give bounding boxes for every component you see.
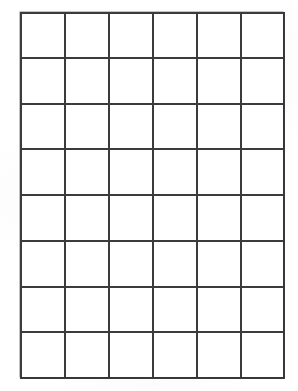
- grid-cell[interactable]: [109, 104, 153, 149]
- grid-cell[interactable]: [21, 149, 65, 195]
- grid-cell[interactable]: [65, 104, 109, 149]
- grid-cell[interactable]: [241, 13, 284, 58]
- grid-cell[interactable]: [197, 195, 241, 241]
- grid-row: [21, 149, 284, 195]
- grid-cell[interactable]: [241, 58, 284, 104]
- grid-cell[interactable]: [21, 195, 65, 241]
- grid-cell[interactable]: [197, 13, 241, 58]
- grid-cell[interactable]: [65, 149, 109, 195]
- grid-cell[interactable]: [109, 195, 153, 241]
- grid-cell[interactable]: [197, 332, 241, 378]
- grid-cell[interactable]: [153, 287, 197, 332]
- grid-cell[interactable]: [109, 58, 153, 104]
- scan-page: [0, 0, 298, 391]
- blank-grid-table: [20, 12, 285, 379]
- grid-cell[interactable]: [241, 287, 284, 332]
- grid-cell[interactable]: [241, 104, 284, 149]
- grid-cell[interactable]: [21, 104, 65, 149]
- grid-cell[interactable]: [109, 287, 153, 332]
- grid-container: [20, 12, 283, 377]
- grid-cell[interactable]: [241, 332, 284, 378]
- grid-cell[interactable]: [65, 332, 109, 378]
- grid-body: [21, 13, 284, 378]
- grid-cell[interactable]: [65, 13, 109, 58]
- grid-cell[interactable]: [197, 241, 241, 287]
- grid-cell[interactable]: [197, 104, 241, 149]
- grid-cell[interactable]: [65, 241, 109, 287]
- grid-cell[interactable]: [153, 332, 197, 378]
- grid-cell[interactable]: [109, 149, 153, 195]
- grid-cell[interactable]: [21, 58, 65, 104]
- grid-cell[interactable]: [109, 332, 153, 378]
- grid-cell[interactable]: [65, 287, 109, 332]
- grid-cell[interactable]: [153, 149, 197, 195]
- grid-cell[interactable]: [197, 58, 241, 104]
- grid-row: [21, 241, 284, 287]
- grid-cell[interactable]: [153, 13, 197, 58]
- grid-cell[interactable]: [241, 149, 284, 195]
- grid-row: [21, 195, 284, 241]
- grid-cell[interactable]: [241, 195, 284, 241]
- grid-row: [21, 58, 284, 104]
- grid-cell[interactable]: [21, 332, 65, 378]
- grid-row: [21, 104, 284, 149]
- grid-cell[interactable]: [153, 58, 197, 104]
- grid-row: [21, 13, 284, 58]
- grid-cell[interactable]: [21, 13, 65, 58]
- grid-row: [21, 332, 284, 378]
- grid-cell[interactable]: [197, 149, 241, 195]
- grid-cell[interactable]: [241, 241, 284, 287]
- grid-cell[interactable]: [109, 241, 153, 287]
- grid-cell[interactable]: [65, 195, 109, 241]
- grid-cell[interactable]: [153, 241, 197, 287]
- grid-cell[interactable]: [21, 287, 65, 332]
- grid-cell[interactable]: [153, 104, 197, 149]
- grid-cell[interactable]: [65, 58, 109, 104]
- grid-row: [21, 287, 284, 332]
- grid-cell[interactable]: [21, 241, 65, 287]
- grid-cell[interactable]: [109, 13, 153, 58]
- grid-cell[interactable]: [153, 195, 197, 241]
- grid-cell[interactable]: [197, 287, 241, 332]
